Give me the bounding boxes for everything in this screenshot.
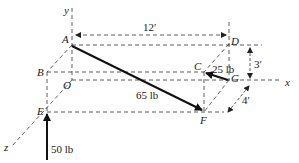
axis-label-z: z	[3, 141, 9, 153]
force-50lb-label: 50 lb	[51, 143, 74, 155]
point-label-O: O	[63, 79, 71, 91]
force-50lb-arrow: 50 lb	[47, 114, 74, 160]
axis-label-x: x	[284, 76, 290, 88]
point-label-D: D	[230, 35, 239, 47]
axis-label-y: y	[63, 4, 69, 16]
dimension-12-label: 12′	[143, 21, 156, 33]
point-label-B: B	[37, 66, 44, 78]
dimension-3ft: 3′	[250, 48, 262, 78]
dimension-4ft: 4′	[228, 86, 250, 112]
dimension-4-label: 4′	[242, 94, 250, 106]
force-65lb-label: 65 lb	[136, 89, 159, 101]
point-label-G: G	[231, 72, 239, 84]
point-label-C: C	[194, 60, 202, 72]
point-label-F: F	[199, 114, 207, 126]
statics-force-diagram: 12′ 3′ 4′ 65 lb 25 lb 50 lb A B O E D C …	[0, 0, 299, 163]
dimension-12ft: 12′	[76, 21, 226, 35]
point-label-A: A	[61, 33, 69, 45]
point-label-E: E	[36, 105, 44, 117]
force-65lb-arrow: 65 lb	[72, 46, 202, 110]
dimension-3-label: 3′	[254, 58, 262, 70]
